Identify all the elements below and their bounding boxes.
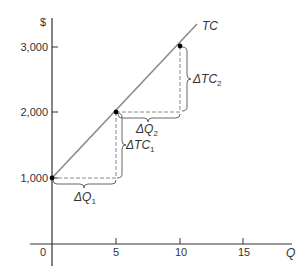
brace-dq1 xyxy=(53,180,116,188)
y-tick-label-2000: 2,000 xyxy=(20,106,48,118)
x-tick-label-5: 5 xyxy=(113,246,119,258)
point-q0 xyxy=(50,176,55,181)
point-q5 xyxy=(114,110,119,115)
y-tick-label-1000: 1,000 xyxy=(20,172,48,184)
y-axis-label: $ xyxy=(40,16,46,28)
brace-dtc1 xyxy=(117,113,126,178)
y-tick-label-3000: 3,000 xyxy=(20,41,48,53)
dtc2-label: ΔTC2 xyxy=(192,72,222,88)
brace-dq2 xyxy=(118,114,180,122)
x-tick-label-15: 15 xyxy=(238,246,250,258)
x-tick-label-10: 10 xyxy=(175,246,187,258)
x-tick-label-0: 0 xyxy=(40,246,46,258)
braces xyxy=(53,47,191,188)
point-q10 xyxy=(178,44,183,49)
dtc1-label: ΔTC1 xyxy=(125,138,155,154)
tc-line xyxy=(52,24,197,178)
dq2-label: ΔQ2 xyxy=(135,122,158,138)
dq1-label: ΔQ1 xyxy=(73,190,96,206)
brace-dtc2 xyxy=(182,47,191,111)
tc-chart: $ 3,000 2,000 1,000 0 5 10 15 Q TC ΔQ1 Δ… xyxy=(0,0,306,278)
x-axis-label: Q xyxy=(286,246,295,260)
tc-label: TC xyxy=(202,19,218,33)
